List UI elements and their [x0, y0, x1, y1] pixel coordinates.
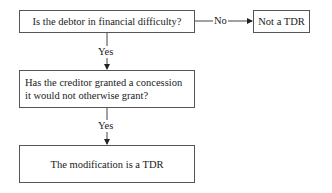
node-text: Not a TDR	[258, 15, 304, 28]
node-text: Is the debtor in financial difficulty?	[33, 15, 182, 28]
node-modification-is-tdr: The modification is a TDR	[19, 145, 195, 183]
edge-label-yes-1: Yes	[98, 46, 113, 58]
node-concession-question: Has the creditor granted a concession it…	[19, 70, 195, 108]
node-financial-difficulty-question: Is the debtor in financial difficulty?	[19, 10, 195, 33]
node-text: The modification is a TDR	[51, 158, 164, 171]
edge-label-yes-2: Yes	[98, 120, 113, 132]
node-not-a-tdr: Not a TDR	[253, 10, 310, 33]
node-text: Has the creditor granted a concession it…	[25, 76, 189, 102]
edge-label-no: No	[213, 15, 228, 27]
